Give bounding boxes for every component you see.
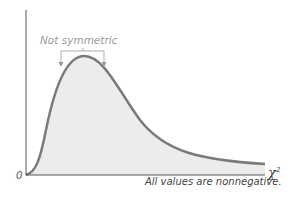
curve-fill (26, 56, 265, 175)
origin-label: 0 (16, 170, 22, 181)
chi-square-plot (0, 0, 299, 200)
footnote: All values are nonnegative. (145, 176, 282, 187)
superscript: 2 (276, 166, 280, 174)
not-symmetric-label: Not symmetric (40, 34, 117, 46)
